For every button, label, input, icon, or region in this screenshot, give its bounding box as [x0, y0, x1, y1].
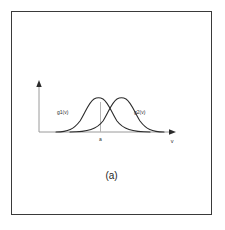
figure-frame: g1(v) g2(v) v a (a): [11, 11, 212, 215]
curve-label-g2: g2(v): [134, 109, 146, 115]
plot-area: g1(v) g2(v) v a: [12, 12, 213, 216]
figure-caption: (a): [12, 170, 211, 181]
x-axis-label: v: [171, 138, 174, 144]
center-tick-label: a: [99, 136, 102, 142]
x-axis-arrow-icon: [169, 129, 176, 134]
y-axis-arrow-icon: [36, 80, 41, 87]
curve-g2: [70, 98, 164, 132]
curve-label-g1: g1(v): [57, 109, 69, 115]
